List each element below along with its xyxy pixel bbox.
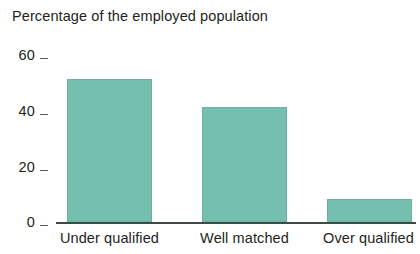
y-axis-tick-mark-icon (40, 58, 48, 59)
bar-chart-figure: Percentage of the employed population 60… (0, 0, 420, 254)
y-axis-tick-mark-icon (40, 225, 48, 226)
y-axis-tick-label: 0 (27, 214, 35, 230)
x-axis-line (56, 222, 416, 224)
y-axis-tick-40: 40 (2, 101, 48, 121)
y-axis-tick-label: 40 (18, 103, 35, 119)
y-axis-tick-mark-icon (40, 114, 48, 115)
y-axis-tick-0: 0 (2, 212, 48, 232)
y-axis-tick-label: 20 (18, 159, 35, 175)
bar-well-matched (202, 107, 287, 222)
y-axis-tick-60: 60 (2, 45, 48, 65)
x-axis-label-under-qualified: Under qualified (57, 228, 162, 248)
x-axis-label-over-qualified: Over qualified (317, 228, 420, 248)
x-axis-label-well-matched: Well matched (192, 228, 297, 248)
bar-over-qualified (327, 199, 412, 222)
y-axis-tick-label: 60 (18, 47, 35, 63)
bar-under-qualified (67, 79, 152, 222)
y-axis-tick-mark-icon (40, 170, 48, 171)
y-axis-tick-20: 20 (2, 157, 48, 177)
plot-area: 60 40 20 0 Under qualified Well matched … (0, 0, 420, 254)
